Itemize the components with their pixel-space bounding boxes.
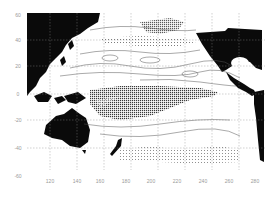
y-tick: 20 [15, 63, 21, 69]
x-tick: 280 [251, 178, 260, 184]
y-tick: 60 [15, 12, 21, 18]
y-tick: -60 [14, 173, 21, 179]
y-tick: 40 [15, 37, 21, 43]
y-tick: -40 [14, 145, 21, 151]
x-tick: 240 [199, 178, 208, 184]
pacific-contour-map: 60 40 20 0 -20 -40 -60 120 140 160 180 2… [0, 0, 277, 206]
x-tick: 120 [46, 178, 55, 184]
x-tick: 260 [225, 178, 234, 184]
y-tick: 0 [17, 91, 20, 97]
x-tick: 180 [122, 178, 131, 184]
y-tick: -20 [14, 117, 21, 123]
y-axis: 60 40 20 0 -20 -40 -60 [14, 12, 21, 179]
x-axis: 120 140 160 180 200 220 240 260 280 [46, 178, 260, 184]
x-tick: 220 [173, 178, 182, 184]
x-tick: 140 [73, 178, 82, 184]
x-tick: 160 [96, 178, 105, 184]
map-area [27, 13, 265, 171]
x-tick: 200 [147, 178, 156, 184]
